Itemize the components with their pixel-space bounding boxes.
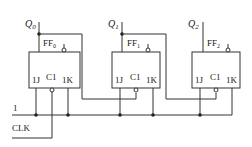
svg-text:Q1: Q1 (108, 18, 119, 31)
logic-one-label: 1 (13, 103, 18, 113)
clk-label: CLK (12, 123, 31, 133)
clock-bubble (50, 88, 54, 92)
svg-text:1J: 1J (115, 75, 124, 85)
svg-text:Q2: Q2 (188, 18, 199, 31)
svg-text:C1: C1 (130, 72, 141, 82)
logic-one-rail: 1 CLK (12, 103, 232, 133)
svg-text:FF2: FF2 (207, 38, 220, 49)
reset-bubble (62, 48, 66, 52)
svg-text:1K: 1K (146, 75, 158, 85)
svg-text:FF1: FF1 (127, 38, 140, 49)
svg-text:1J: 1J (195, 75, 204, 85)
svg-text:FF0: FF0 (43, 38, 56, 49)
svg-text:Q0: Q0 (25, 18, 36, 31)
svg-text:C1: C1 (46, 72, 57, 82)
svg-text:1J: 1J (32, 75, 41, 85)
svg-text:1K: 1K (226, 75, 238, 85)
counter-circuit-diagram: Q0 FF0 1J C1 1K Q1 FF1 1J C1 1K Q2 FF2 1… (0, 0, 252, 147)
svg-text:C1: C1 (210, 72, 221, 82)
flip-flop-2: Q2 FF2 1J C1 1K (188, 18, 240, 115)
svg-text:1K: 1K (62, 75, 74, 85)
